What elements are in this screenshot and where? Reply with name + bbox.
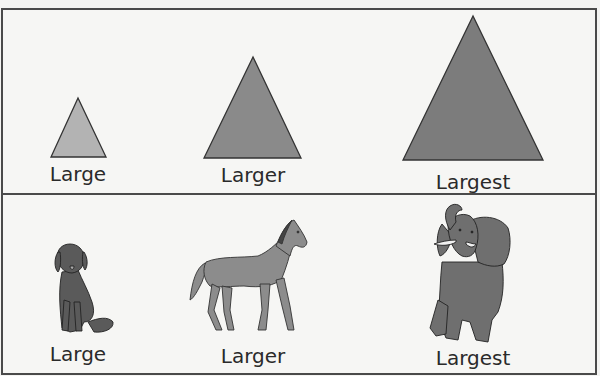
large-triangle-icon bbox=[403, 16, 543, 160]
medium-triangle-icon bbox=[204, 57, 301, 158]
triangle-small-label: Large bbox=[50, 164, 106, 184]
horse-label: Larger bbox=[221, 346, 286, 366]
triangle-large-label: Largest bbox=[436, 172, 511, 192]
elephant-label: Largest bbox=[436, 348, 511, 368]
dog-icon bbox=[55, 244, 113, 332]
horse-icon bbox=[190, 220, 307, 330]
dog-label: Large bbox=[50, 344, 106, 364]
small-triangle-icon bbox=[51, 98, 106, 157]
triangle-medium-label: Larger bbox=[221, 165, 286, 185]
elephant-icon bbox=[430, 204, 510, 342]
